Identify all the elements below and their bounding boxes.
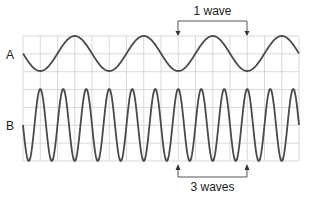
bottom-arrow-left-icon: [176, 164, 181, 170]
one-wave-label: 1 wave: [193, 4, 231, 18]
bottom-arrow-right-icon: [245, 164, 250, 170]
bottom-bracket: [178, 166, 247, 177]
wave-b-label: B: [6, 119, 14, 133]
three-waves-label: 3 waves: [190, 180, 234, 194]
top-arrow-right-icon: [245, 31, 250, 36]
wave-comparison-diagram: 1 wave 3 waves A B: [0, 0, 312, 201]
top-bracket: [178, 21, 247, 35]
top-arrow-left-icon: [176, 31, 181, 36]
wave-a-label: A: [6, 48, 14, 62]
